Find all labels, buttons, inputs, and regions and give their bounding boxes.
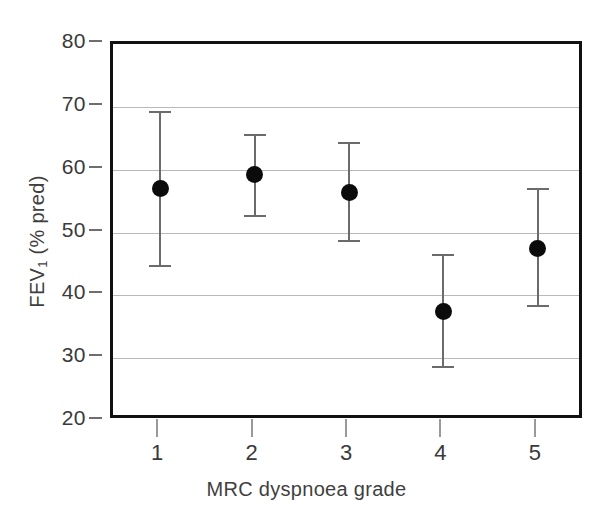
errorbar-cap-lower <box>338 240 360 242</box>
gridline <box>113 358 579 359</box>
x-tick-label: 4 <box>434 440 446 466</box>
errorbar-cap-lower <box>527 305 549 307</box>
x-tick-mark <box>345 419 347 437</box>
data-dot <box>152 180 169 197</box>
errorbar-cap-upper <box>149 111 171 113</box>
errorbar-cap-upper <box>527 188 549 190</box>
gridline <box>113 233 579 234</box>
y-tick-mark <box>89 354 102 356</box>
x-tick-label: 3 <box>340 440 352 466</box>
x-axis-title: MRC dyspnoea grade <box>0 478 613 501</box>
x-tick-mark <box>439 419 441 437</box>
x-tick-label: 2 <box>245 440 257 466</box>
y-tick-label: 50 <box>62 218 86 242</box>
gridline <box>113 295 579 296</box>
errorbar-cap-lower <box>432 366 454 368</box>
y-tick-mark <box>89 103 102 105</box>
y-tick-label: 20 <box>62 406 86 430</box>
data-dot <box>529 240 546 257</box>
plot-area <box>110 41 582 418</box>
y-tick-mark <box>89 417 102 419</box>
y-tick-label: 70 <box>62 92 86 116</box>
gridline <box>113 170 579 171</box>
y-tick-label: 60 <box>62 155 86 179</box>
data-dot <box>435 303 452 320</box>
x-tick-label: 5 <box>529 440 541 466</box>
y-axis: 80706050403020 <box>0 0 110 520</box>
y-tick-mark <box>89 291 102 293</box>
errorbar-cap-upper <box>244 134 266 136</box>
x-tick-mark <box>156 419 158 437</box>
y-tick-mark <box>89 166 102 168</box>
errorbar-cap-upper <box>432 254 454 256</box>
errorbar-cap-upper <box>338 142 360 144</box>
data-dot <box>246 166 263 183</box>
gridline <box>113 107 579 108</box>
x-tick-mark <box>534 419 536 437</box>
errorbar-cap-lower <box>244 215 266 217</box>
data-dot <box>341 184 358 201</box>
x-tick-mark <box>251 419 253 437</box>
y-tick-mark <box>89 229 102 231</box>
errorbar-cap-lower <box>149 265 171 267</box>
y-tick-mark <box>89 40 102 42</box>
y-tick-label: 30 <box>62 343 86 367</box>
chart-figure: FEV1 (% pred) 80706050403020 12345 MRC d… <box>0 0 613 520</box>
y-tick-label: 80 <box>62 29 86 53</box>
x-tick-label: 1 <box>151 440 163 466</box>
y-tick-label: 40 <box>62 280 86 304</box>
